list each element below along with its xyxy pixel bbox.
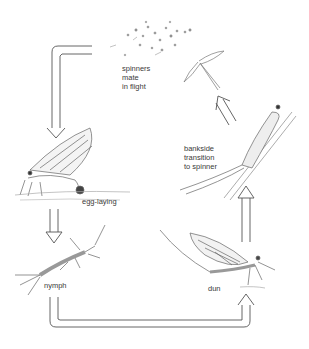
- arrow-to-nymph: [46, 209, 62, 243]
- dun-mayfly-illustration: [160, 230, 275, 288]
- arrow-to-bankside: [238, 186, 254, 242]
- label-dun: dun: [208, 284, 221, 293]
- flying-spinner-illustration: [184, 51, 224, 90]
- label-nymph: nymph: [44, 281, 67, 290]
- arrow-to-spinners: [216, 96, 236, 125]
- label-egg-laying: egg-laying: [82, 197, 117, 206]
- egg-laying-mayfly-illustration: [15, 128, 130, 200]
- spinner-swarm-illustration: [110, 21, 191, 56]
- arrow-to-dun: [50, 294, 254, 327]
- arrow-to-egg-laying: [47, 46, 92, 138]
- label-bankside: bankside transition to spinner: [184, 144, 217, 171]
- life-cycle-diagram: [0, 0, 309, 349]
- label-spinners: spinners mate in flight: [122, 64, 150, 91]
